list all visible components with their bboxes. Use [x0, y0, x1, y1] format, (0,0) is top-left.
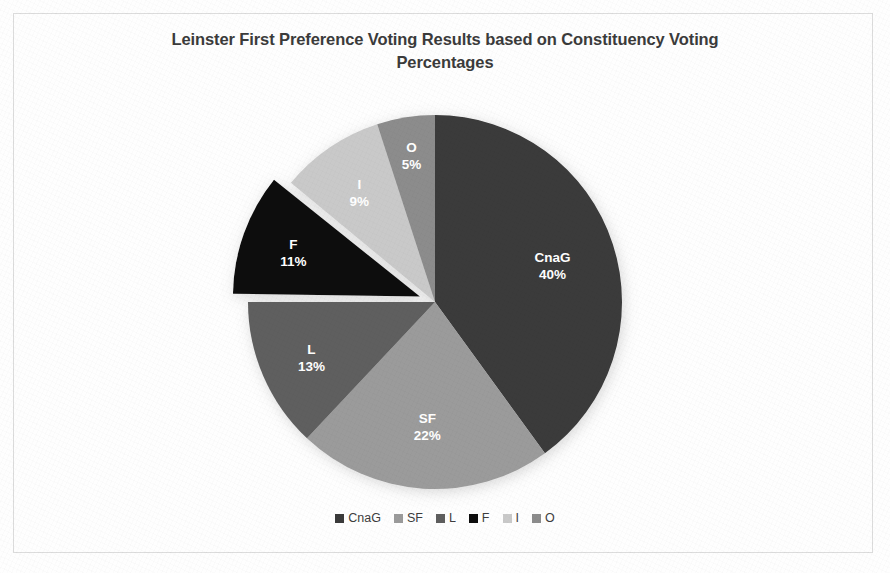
legend-label-o: O: [545, 512, 555, 525]
chart-title-line-2: Percentages: [396, 53, 493, 71]
legend-item-cnag[interactable]: CnaG: [335, 512, 381, 525]
pie-label-name-o: O: [406, 140, 417, 155]
chart-legend: CnaGSFLFIO: [0, 512, 890, 525]
legend-item-l[interactable]: L: [436, 512, 456, 525]
legend-label-l: L: [449, 512, 456, 525]
pie-label-value-cnag: 40%: [539, 267, 566, 282]
pie-label-name-sf: SF: [419, 411, 436, 426]
legend-label-cnag: CnaG: [348, 512, 381, 525]
legend-item-sf[interactable]: SF: [394, 512, 423, 525]
legend-swatch-f: [469, 514, 478, 523]
legend-label-f: F: [482, 512, 490, 525]
pie-label-value-sf: 22%: [414, 428, 441, 443]
pie-chart-svg: CnaG40%SF22%L13%F11%I9%O5%: [0, 0, 890, 573]
legend-swatch-cnag: [335, 514, 344, 523]
pie-label-name-i: I: [357, 177, 361, 192]
pie-chart-area: CnaG40%SF22%L13%F11%I9%O5%: [0, 0, 890, 573]
pie-label-name-cnag: CnaG: [534, 250, 570, 265]
chart-page: Leinster First Preference Voting Results…: [0, 0, 890, 573]
pie-label-value-f: 11%: [280, 254, 306, 269]
pie-label-value-i: 9%: [350, 194, 370, 209]
legend-swatch-sf: [394, 514, 403, 523]
chart-title: Leinster First Preference Voting Results…: [120, 28, 770, 75]
legend-item-o[interactable]: O: [532, 512, 555, 525]
pie-label-value-l: 13%: [298, 359, 325, 374]
legend-item-f[interactable]: F: [469, 512, 490, 525]
legend-swatch-o: [532, 514, 541, 523]
legend-swatch-i: [503, 514, 512, 523]
legend-item-i[interactable]: I: [503, 512, 519, 525]
pie-label-value-o: 5%: [402, 157, 422, 172]
legend-label-sf: SF: [407, 512, 423, 525]
pie-label-name-f: F: [289, 237, 297, 252]
pie-label-name-l: L: [307, 342, 315, 357]
legend-swatch-l: [436, 514, 445, 523]
legend-label-i: I: [516, 512, 519, 525]
chart-title-line-1: Leinster First Preference Voting Results…: [171, 30, 718, 48]
